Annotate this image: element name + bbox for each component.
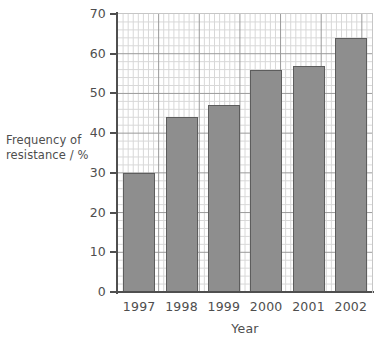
bar-1998 <box>166 117 198 292</box>
x-tick-label-1999: 1999 <box>200 299 248 314</box>
y-tick-mark-0 <box>110 291 117 293</box>
bar-2001 <box>293 66 325 292</box>
plot-frame-right <box>372 13 373 293</box>
x-tick-label-1997: 1997 <box>115 299 163 314</box>
y-axis-label-line-2: resistance / % <box>6 148 102 163</box>
bar-1999 <box>208 105 240 292</box>
y-tick-mark-20 <box>110 212 117 214</box>
y-tick-label-30: 30 <box>78 165 106 180</box>
bar-2002 <box>335 38 367 292</box>
y-tick-label-wrap: 70 <box>78 6 106 20</box>
x-axis-spine <box>116 291 374 293</box>
x-tick-label-2001: 2001 <box>285 299 333 314</box>
y-tick-label-40: 40 <box>78 125 106 140</box>
bar-1997 <box>123 173 155 292</box>
y-tick-label-20: 20 <box>78 205 106 220</box>
plot-area <box>118 14 372 292</box>
y-tick-label-wrap: 40 <box>78 125 106 139</box>
x-tick-label-2000: 2000 <box>242 299 290 314</box>
y-tick-label-wrap: 10 <box>78 244 106 258</box>
y-tick-label-wrap: 20 <box>78 205 106 219</box>
y-tick-label-70: 70 <box>78 6 106 21</box>
x-tick-label-1998: 1998 <box>158 299 206 314</box>
y-tick-label-wrap: 0 <box>78 284 106 298</box>
y-tick-mark-60 <box>110 53 117 55</box>
y-tick-mark-50 <box>110 92 117 94</box>
y-tick-label-50: 50 <box>78 85 106 100</box>
y-tick-mark-70 <box>110 13 117 15</box>
y-tick-label-10: 10 <box>78 244 106 259</box>
y-tick-label-wrap: 60 <box>78 46 106 60</box>
x-axis-label: Year <box>118 321 372 336</box>
y-tick-label-0: 0 <box>78 284 106 299</box>
y-tick-mark-40 <box>110 132 117 134</box>
bar-2000 <box>250 70 282 292</box>
y-tick-mark-30 <box>110 172 117 174</box>
y-tick-label-wrap: 50 <box>78 85 106 99</box>
bar-chart-figure: Frequency of resistance / % 010203040506… <box>0 0 386 349</box>
y-tick-label-wrap: 30 <box>78 165 106 179</box>
y-tick-label-60: 60 <box>78 46 106 61</box>
x-tick-label-2002: 2002 <box>327 299 375 314</box>
y-tick-mark-10 <box>110 251 117 253</box>
plot-frame-top <box>118 13 373 14</box>
